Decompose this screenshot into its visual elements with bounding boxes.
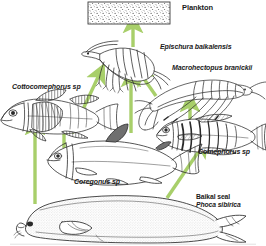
plankton-node: [88, 2, 170, 24]
label-baikal-seal: Baikal seal Phoca sibirica: [196, 193, 241, 209]
label-cottocomephorus-sp: Cottocomephorus sp: [12, 83, 81, 91]
arrow-seal-to-comephorus: [167, 148, 201, 198]
label-comephorus-sp: Comephorus sp: [198, 148, 250, 156]
cottocomephorus-drawing: [1, 89, 118, 141]
label-macrohectopus-branickii: Macrohectopus branickii: [172, 64, 252, 72]
food-web-diagram: Plankton Epischura baikalensis Macrohect…: [0, 0, 266, 246]
food-web-illustration: [0, 0, 266, 246]
label-epischura-baikalensis: Epischura baikalensis: [160, 43, 231, 51]
plankton-box: [88, 2, 170, 24]
label-seal-common-name: Baikal seal: [196, 193, 241, 201]
label-plankton: Plankton: [182, 4, 213, 12]
label-seal-scientific-name: Phoca sibirica: [196, 201, 241, 209]
label-coregonus-sp: Coregonus sp: [74, 178, 120, 186]
